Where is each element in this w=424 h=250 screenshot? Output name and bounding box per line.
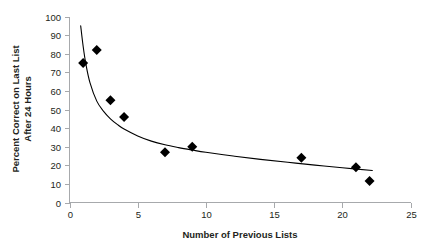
x-tick-label: 15 xyxy=(269,209,280,220)
data-point-diamond xyxy=(351,162,361,172)
x-tick-label: 10 xyxy=(201,209,212,220)
data-point-diamond xyxy=(92,45,102,55)
y-tick-label: 0 xyxy=(56,198,61,209)
x-axis-title: Number of Previous Lists xyxy=(182,229,297,240)
data-point-diamond xyxy=(160,147,170,157)
x-tick-label: 0 xyxy=(68,209,73,220)
y-tick-label: 20 xyxy=(50,160,61,171)
y-axis-ticks: 0102030405060708090100 xyxy=(45,12,69,209)
chart-container: 0102030405060708090100 0510152025 Number… xyxy=(0,0,424,250)
y-tick-label: 30 xyxy=(50,142,61,153)
x-tick-label: 20 xyxy=(337,209,348,220)
data-point-diamond xyxy=(105,95,115,105)
data-point-markers xyxy=(78,45,374,186)
y-tick-label: 40 xyxy=(50,123,61,134)
data-point-diamond xyxy=(119,112,129,122)
y-tick-label: 70 xyxy=(50,67,61,78)
y-tick-label: 50 xyxy=(50,105,61,116)
y-axis-title-line2: After 24 Hours xyxy=(22,76,33,141)
y-tick-label: 90 xyxy=(50,30,61,41)
data-point-diamond xyxy=(365,176,375,186)
y-tick-label: 10 xyxy=(50,179,61,190)
scatter-plot: 0102030405060708090100 0510152025 Number… xyxy=(0,0,424,250)
x-tick-label: 5 xyxy=(136,209,141,220)
y-tick-label: 80 xyxy=(50,49,61,60)
y-tick-label: 100 xyxy=(45,12,61,23)
x-axis-ticks: 0510152025 xyxy=(68,203,417,221)
data-point-diamond xyxy=(296,153,306,163)
trend-line xyxy=(81,26,373,171)
y-axis-title-line1: Percent Correct on Last List xyxy=(10,45,21,173)
y-tick-label: 60 xyxy=(50,86,61,97)
x-tick-label: 25 xyxy=(406,209,417,220)
